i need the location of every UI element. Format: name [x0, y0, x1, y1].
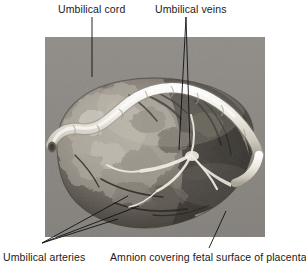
- photo-grain: [45, 37, 265, 237]
- label-umbilical-cord: Umbilical cord: [58, 3, 125, 15]
- placenta-photo-image: [45, 37, 265, 237]
- label-amnion: Amnion covering fetal surface of placent…: [110, 251, 306, 263]
- placenta-photo: [45, 37, 265, 237]
- label-umbilical-arteries: Umbilical arteries: [3, 251, 85, 263]
- placenta-figure: Umbilical cord Umbilical veins Umbilical…: [0, 0, 306, 272]
- label-umbilical-veins: Umbilical veins: [155, 3, 227, 15]
